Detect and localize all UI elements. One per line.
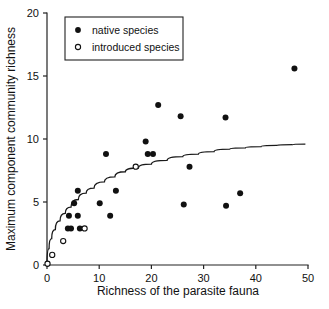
legend-label-native: native species [92, 24, 159, 36]
legend: native species introduced species [65, 17, 183, 60]
x-tick-label-40: 40 [250, 272, 262, 284]
y-tick-label-5: 5 [33, 196, 39, 208]
fitted-curve [47, 144, 305, 265]
data-point-native-14 [155, 102, 161, 108]
legend-marker-introduced [75, 44, 80, 49]
data-point-native-13 [150, 151, 156, 157]
x-tick-label-20: 20 [145, 272, 157, 284]
data-point-native-3 [71, 200, 77, 206]
data-point-native-21 [291, 65, 297, 71]
legend-label-introduced: introduced species [92, 41, 180, 53]
data-point-native-18 [223, 115, 229, 121]
x-axis-group: 01020304050 [44, 265, 314, 284]
data-point-native-7 [97, 200, 103, 206]
y-tick-label-10: 10 [27, 133, 39, 145]
x-axis-title: Richness of the parasite fauna [97, 284, 259, 298]
x-tick-labels: 01020304050 [44, 272, 314, 284]
x-tick-label-0: 0 [44, 272, 50, 284]
data-point-native-19 [223, 203, 229, 209]
data-point-native-20 [237, 190, 243, 196]
data-point-introduced-4 [133, 164, 138, 169]
data-point-native-12 [145, 151, 151, 157]
chart-figure: 05101520 01020304050 native species intr… [0, 0, 329, 309]
y-tick-label-0: 0 [33, 259, 39, 271]
y-tick-label-15: 15 [27, 70, 39, 82]
data-point-native-15 [178, 113, 184, 119]
data-point-native-16 [181, 202, 187, 208]
y-tick-label-20: 20 [27, 7, 39, 19]
data-point-native-5 [75, 213, 81, 219]
data-point-native-2 [68, 225, 74, 231]
y-axis-group: 05101520 [27, 7, 47, 271]
x-tick-label-50: 50 [302, 272, 314, 284]
scatter-plot: 05101520 01020304050 native species intr… [0, 0, 329, 309]
series-introduced-species [45, 164, 138, 266]
data-point-native-4 [75, 188, 81, 194]
data-point-native-11 [143, 139, 149, 145]
legend-marker-native [75, 27, 81, 33]
series-native-species [65, 65, 298, 231]
y-axis-title: Maximum component community richness [4, 27, 18, 251]
data-point-native-8 [103, 151, 109, 157]
data-point-introduced-3 [82, 226, 87, 231]
x-tick-label-30: 30 [197, 272, 209, 284]
data-point-introduced-2 [61, 238, 66, 243]
data-point-native-0 [66, 213, 72, 219]
data-point-introduced-1 [50, 252, 55, 257]
data-point-native-10 [113, 188, 119, 194]
data-point-native-17 [187, 164, 193, 170]
y-tick-labels: 05101520 [27, 7, 39, 271]
x-tick-label-10: 10 [93, 272, 105, 284]
data-point-introduced-0 [45, 261, 50, 266]
data-point-native-9 [107, 213, 113, 219]
